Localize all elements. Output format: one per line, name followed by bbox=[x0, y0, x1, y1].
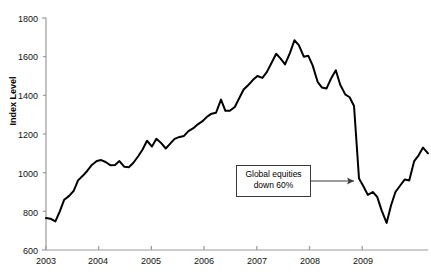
chart-container: Index Level 1800 1600 1400 1200 1000 800… bbox=[0, 0, 431, 277]
annotation-callout: Global equities down 60% bbox=[236, 165, 311, 197]
annotation-text-line-2: down 60% bbox=[241, 180, 306, 191]
annotation-text-line-1: Global equities bbox=[241, 169, 306, 180]
plot-area bbox=[0, 0, 431, 277]
annotation-arrow bbox=[311, 178, 354, 185]
